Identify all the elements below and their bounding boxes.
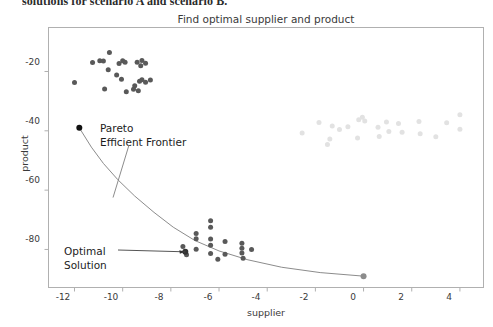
- scatter-points: [72, 50, 462, 262]
- plot-graphics: [0, 0, 493, 327]
- annotation-leader-lines: [113, 145, 185, 254]
- highlight-markers: [76, 125, 366, 279]
- page-root: solutions for scenario A and scenario B.…: [0, 0, 493, 327]
- pareto-frontier-curve: [79, 128, 363, 276]
- axis-ticks: [45, 71, 460, 291]
- scatter-figure: Find optimal supplier and product -20 -4…: [0, 0, 493, 327]
